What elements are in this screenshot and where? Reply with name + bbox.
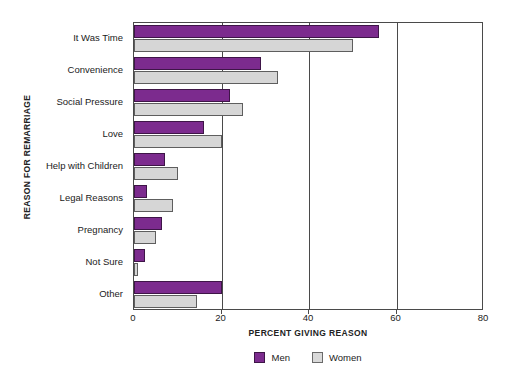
category-label: Legal Reasons — [0, 192, 123, 203]
bar-women — [134, 231, 156, 244]
bar-women — [134, 199, 173, 212]
bar-men — [134, 121, 204, 134]
bar-group — [134, 247, 482, 279]
bar-men — [134, 153, 165, 166]
category-label: It Was Time — [0, 32, 123, 43]
bar-chart: REASON FOR REMARRIAGE It Was TimeConveni… — [0, 0, 512, 387]
bar-men — [134, 249, 145, 262]
category-label: Pregnancy — [0, 224, 123, 235]
bar-men — [134, 217, 162, 230]
legend-label: Men — [271, 352, 289, 363]
bar-group — [134, 151, 482, 183]
bar-women — [134, 103, 243, 116]
bar-men — [134, 25, 379, 38]
bar-group — [134, 87, 482, 119]
x-tick-label: 20 — [215, 312, 226, 323]
category-label: Convenience — [0, 64, 123, 75]
bar-women — [134, 135, 222, 148]
category-label: Not Sure — [0, 256, 123, 267]
x-tick-label: 60 — [390, 312, 401, 323]
bar-men — [134, 89, 230, 102]
bar-women — [134, 71, 278, 84]
x-tick-label: 40 — [303, 312, 314, 323]
bar-women — [134, 39, 353, 52]
plot-area — [133, 22, 483, 310]
bar-group — [134, 215, 482, 247]
legend-item-women: Women — [312, 352, 362, 363]
x-axis-tick-labels: 020406080 — [0, 312, 512, 326]
legend-swatch-icon — [312, 352, 323, 363]
bar-men — [134, 185, 147, 198]
bar-men — [134, 281, 222, 294]
bar-group — [134, 279, 482, 311]
bar-men — [134, 57, 261, 70]
bar-women — [134, 263, 138, 276]
x-tick-label: 0 — [130, 312, 135, 323]
bar-women — [134, 295, 197, 308]
legend-item-men: Men — [254, 352, 289, 363]
x-axis-title: PERCENT GIVING REASON — [133, 328, 483, 338]
category-label: Love — [0, 128, 123, 139]
legend: MenWomen — [133, 352, 483, 363]
legend-label: Women — [329, 352, 362, 363]
bar-group — [134, 55, 482, 87]
x-tick-label: 80 — [478, 312, 489, 323]
category-label: Social Pressure — [0, 96, 123, 107]
category-label: Help with Children — [0, 160, 123, 171]
bar-group — [134, 23, 482, 55]
bar-group — [134, 119, 482, 151]
top-caption — [70, 0, 440, 9]
legend-swatch-icon — [254, 352, 265, 363]
bar-women — [134, 167, 178, 180]
category-label: Other — [0, 288, 123, 299]
bar-group — [134, 183, 482, 215]
category-label-list: It Was TimeConvenienceSocial PressureLov… — [0, 22, 128, 310]
